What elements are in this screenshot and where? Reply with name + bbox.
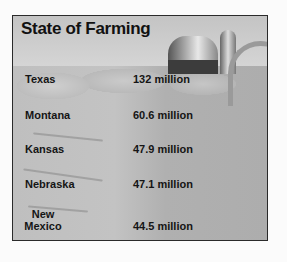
state-name: Texas <box>25 73 55 85</box>
state-name: Nebraska <box>25 178 75 190</box>
state-value: 47.1 million <box>133 178 193 190</box>
state-value: 60.6 million <box>133 109 193 121</box>
state-name: NewMexico <box>23 208 63 232</box>
infographic-title: State of Farming <box>21 19 150 39</box>
state-value: 132 million <box>133 73 190 85</box>
state-value: 47.9 million <box>133 143 193 155</box>
state-name-line2: Mexico <box>24 220 61 232</box>
barn-base <box>168 60 218 74</box>
state-name: Montana <box>25 109 70 121</box>
state-name: Kansas <box>25 143 64 155</box>
state-value: 44.5 million <box>133 220 193 232</box>
state-name-line1: New <box>32 208 55 220</box>
infographic-panel: State of Farming Texas 132 million Monta… <box>12 15 268 241</box>
